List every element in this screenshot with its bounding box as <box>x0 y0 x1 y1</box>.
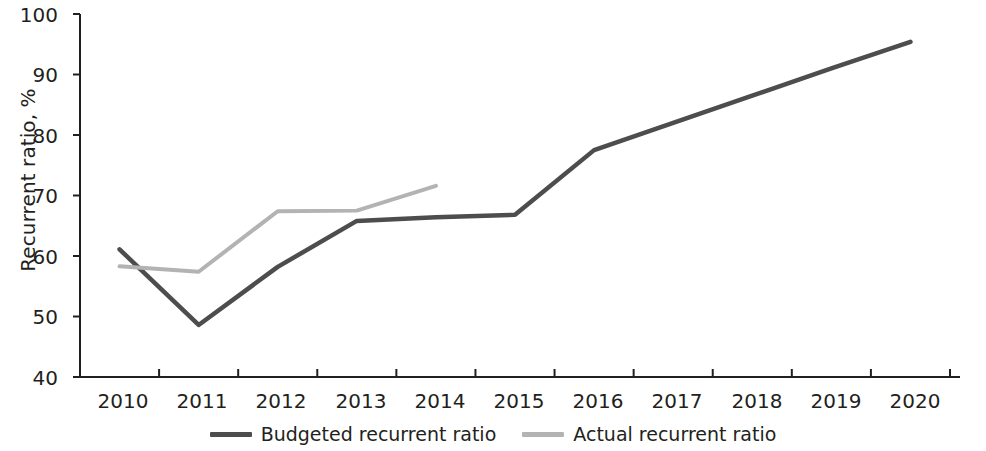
legend-swatch-actual <box>522 432 564 437</box>
legend-item-budgeted: Budgeted recurrent ratio <box>210 424 497 444</box>
data-series-layer <box>120 42 911 325</box>
legend-item-actual: Actual recurrent ratio <box>522 424 776 444</box>
legend-label-actual: Actual recurrent ratio <box>573 424 776 444</box>
series-line-actual-recurrent-ratio <box>120 186 436 272</box>
plot-area <box>0 0 986 451</box>
series-line-budgeted-recurrent-ratio <box>120 42 911 325</box>
legend-label-budgeted: Budgeted recurrent ratio <box>261 424 497 444</box>
legend-swatch-budgeted <box>210 432 252 437</box>
y-axis-ticks <box>73 14 80 377</box>
x-axis-ticks <box>80 369 950 377</box>
line-chart: Recurrent ratio, % 100 90 80 70 60 50 40… <box>0 0 986 451</box>
chart-legend: Budgeted recurrent ratio Actual recurren… <box>0 424 986 444</box>
